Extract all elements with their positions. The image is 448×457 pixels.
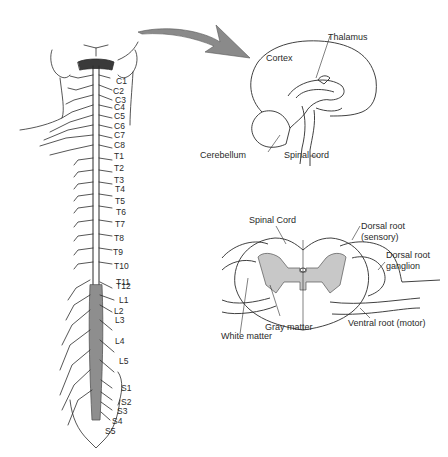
segment-label-l5: L5 <box>119 356 128 366</box>
segment-label-c8: C8 <box>114 140 125 150</box>
label-dorsal-root: Dorsal root <box>361 221 405 231</box>
label-ventral-root: Ventral root (motor) <box>348 318 426 328</box>
segment-label-t10: T10 <box>114 261 129 271</box>
arrow-icon <box>138 25 250 58</box>
segment-label-s4: S4 <box>112 416 122 426</box>
label-drg-line2: ganglion <box>386 261 420 271</box>
segment-label-t6: T6 <box>116 207 126 217</box>
label-cerebellum: Cerebellum <box>200 150 246 160</box>
label-gray-matter: Gray matter <box>265 322 313 332</box>
segment-label-s3: S3 <box>117 406 127 416</box>
label-thalamus: Thalamus <box>328 32 368 42</box>
segment-label-t2: T2 <box>114 163 124 173</box>
segment-label-c1: C1 <box>116 76 127 86</box>
segment-label-s5: S5 <box>105 426 115 436</box>
segment-label-l3: L3 <box>115 315 124 325</box>
segment-label-t12: T12 <box>116 281 131 291</box>
segment-label-s1: S1 <box>121 383 131 393</box>
segment-label-t8: T8 <box>114 233 124 243</box>
label-spinal-cord-section: Spinal Cord <box>249 215 296 225</box>
label-cortex: Cortex <box>266 53 293 63</box>
label-white-matter: White matter <box>221 331 272 341</box>
label-drg-line1: Dorsal root <box>386 250 430 260</box>
segment-label-t1: T1 <box>114 151 124 161</box>
nervous-system-diagram: C1 C2 C3 C4 C5 C6 C7 C8 T1 T2 T3 T4 T5 T… <box>0 0 448 457</box>
segment-label-c7: C7 <box>114 130 125 140</box>
label-spinal-cord-brain: Spinal cord <box>284 150 329 160</box>
label-dorsal-root-sensory: (sensory) <box>361 232 399 242</box>
segment-label-l1: L1 <box>119 295 128 305</box>
segment-label-l4: L4 <box>115 336 124 346</box>
segment-label-t4: T4 <box>115 184 125 194</box>
segment-label-t7: T7 <box>115 219 125 229</box>
segment-label-t9: T9 <box>113 247 123 257</box>
segment-label-c5: C5 <box>114 111 125 121</box>
segment-label-t5: T5 <box>115 196 125 206</box>
